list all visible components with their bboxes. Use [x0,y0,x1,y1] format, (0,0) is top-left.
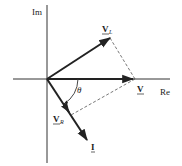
label-v-l: V L [102,24,113,35]
label-i-main: I [91,142,95,152]
phasor-diagram: Im Re V L V V R I θ [0,0,182,166]
label-v: V [137,84,144,94]
imaginary-axis-label: Im [32,7,42,17]
angle-arc [64,79,78,104]
angle-theta-label: θ [77,85,82,95]
real-axis-label: Re [160,87,170,97]
label-v-main: V [137,84,144,94]
label-v-l-main: V [102,24,109,34]
phasor-v-l [47,38,110,79]
dashed-line-vl-to-v [110,38,135,79]
label-i: I [91,142,95,152]
label-v-r: V R [53,114,64,125]
label-v-r-main: V [53,114,60,124]
